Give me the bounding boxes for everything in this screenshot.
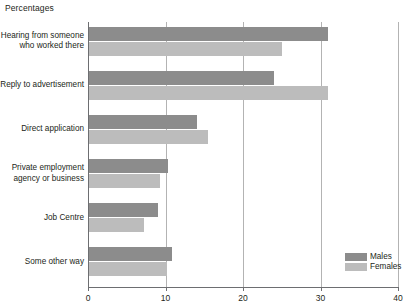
category-label-line: Direct application — [0, 124, 84, 135]
bar-males-1 — [88, 71, 274, 85]
bar-females-1 — [88, 86, 328, 100]
bar-females-0 — [88, 42, 282, 56]
category-label-1: Reply to advertisement — [0, 80, 84, 91]
gridline — [398, 22, 399, 287]
category-label-line: Some other way — [0, 257, 84, 268]
category-label-line: who worked there — [0, 41, 84, 52]
gridline — [321, 22, 322, 287]
category-label-line: Hearing from someone — [0, 31, 84, 42]
x-axis-tick — [243, 287, 244, 291]
category-label-line: Job Centre — [0, 213, 84, 224]
legend-swatch-males — [345, 253, 367, 261]
x-axis-tick — [166, 287, 167, 291]
category-label-4: Job Centre — [0, 213, 84, 224]
bar-males-0 — [88, 27, 328, 41]
x-axis-tick — [398, 287, 399, 291]
bar-males-2 — [88, 115, 197, 129]
bar-females-5 — [88, 262, 167, 276]
bar-chart: Percentages Hearing from someonewho work… — [0, 0, 415, 308]
gridline — [243, 22, 244, 287]
bar-males-4 — [88, 203, 158, 217]
x-axis-tick-label: 30 — [316, 293, 325, 303]
category-label-5: Some other way — [0, 257, 84, 268]
x-axis-tick — [321, 287, 322, 291]
y-axis-line — [88, 22, 89, 287]
legend-label: Males — [370, 252, 392, 262]
x-axis-tick-label: 0 — [86, 293, 91, 303]
category-label-3: Private employmentagency or business — [0, 163, 84, 184]
category-axis-labels: Hearing from someonewho worked thereRepl… — [0, 0, 84, 308]
x-axis-tick-label: 10 — [161, 293, 170, 303]
category-label-0: Hearing from someonewho worked there — [0, 31, 84, 52]
bar-females-3 — [88, 174, 160, 188]
category-label-2: Direct application — [0, 124, 84, 135]
category-label-line: Private employment — [0, 163, 84, 174]
bar-females-4 — [88, 218, 144, 232]
x-axis-tick-label: 40 — [393, 293, 402, 303]
bar-females-2 — [88, 130, 208, 144]
legend-swatch-females — [345, 263, 367, 271]
x-axis-tick-label: 20 — [238, 293, 247, 303]
plot-area — [88, 22, 398, 287]
category-label-line: agency or business — [0, 174, 84, 185]
bar-males-5 — [88, 247, 172, 261]
legend-label: Females — [370, 262, 401, 272]
x-axis-tick — [88, 287, 89, 291]
bar-males-3 — [88, 159, 168, 173]
category-label-line: Reply to advertisement — [0, 80, 84, 91]
